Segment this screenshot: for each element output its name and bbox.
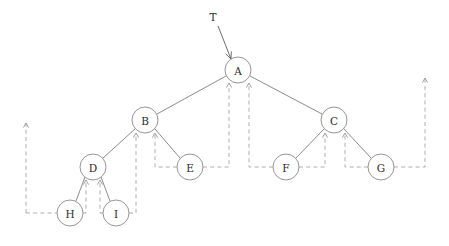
node-label-e: E [186,162,194,174]
tree-edge-a-b [157,76,226,114]
node-label-d: D [89,162,97,174]
threaded-tree-diagram: T ABCDEFGHI [0,0,449,246]
node-label-i: I [114,208,118,220]
tree-node-b[interactable]: B [132,107,158,133]
tree-node-a[interactable]: A [225,57,251,83]
thread-edge-E-right-thread-up-to-A [203,85,229,167]
thread-edge-F-left-thread-up-to-A [249,85,273,167]
tree-node-e[interactable]: E [177,154,203,180]
tree-edge-d-i [101,177,110,201]
tree-nodes-group: ABCDEFGHI [57,57,394,226]
thread-edges-group [26,78,425,213]
thread-edge-G-right-thread-to-right-outer [394,78,425,167]
tree-edge-c-g [344,129,371,158]
thread-edge-H-right-thread-up-to-D [83,182,86,213]
tree-canvas: T ABCDEFGHI [0,0,449,246]
thread-edge-I-left-thread-up-to-D [100,182,103,213]
node-label-a: A [233,65,242,77]
tree-node-i[interactable]: I [103,200,129,226]
tree-node-h[interactable]: H [57,200,83,226]
root-pointer-group: T [209,11,231,59]
tree-edge-b-e [155,129,180,158]
node-label-f: F [282,162,289,174]
tree-edges-group [76,76,371,201]
node-label-g: G [377,162,385,174]
root-pointer-label: T [209,11,216,23]
tree-edge-a-c [250,76,322,114]
thread-edge-I-right-thread-up-to-B [129,135,136,213]
tree-edge-c-f [296,129,324,158]
node-label-c: C [330,115,338,127]
tree-node-f[interactable]: F [273,154,299,180]
thread-arrowhead-icon [226,83,231,88]
tree-node-g[interactable]: G [368,154,394,180]
tree-edge-b-d [103,129,135,158]
tree-node-d[interactable]: D [80,154,106,180]
node-label-h: H [65,208,74,220]
root-pointer-line [218,26,231,59]
tree-node-c[interactable]: C [321,107,347,133]
tree-edge-d-h [76,177,85,201]
node-label-b: B [141,115,149,127]
